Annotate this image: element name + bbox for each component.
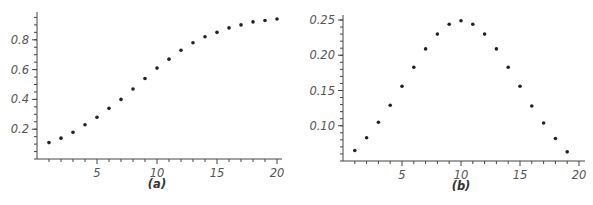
- data-point: [167, 57, 171, 61]
- data-point: [412, 65, 416, 69]
- y-tick-label: 0.10: [309, 119, 335, 133]
- chart-b: 0.100.150.200.255101520(b): [309, 13, 586, 193]
- data-point: [83, 123, 87, 127]
- data-point: [131, 87, 135, 91]
- data-point: [215, 31, 219, 35]
- x-tick-label: 5: [93, 166, 100, 180]
- data-point: [471, 22, 475, 26]
- data-point: [400, 84, 404, 88]
- data-point: [179, 48, 183, 52]
- data-point: [506, 65, 510, 69]
- data-point: [565, 150, 569, 154]
- y-tick-label: 0.2: [11, 122, 29, 136]
- data-point: [107, 107, 111, 111]
- data-point: [530, 104, 534, 108]
- data-point: [388, 104, 392, 108]
- data-point: [191, 41, 195, 45]
- x-tick-label: 15: [513, 168, 528, 182]
- x-tick-label: 5: [398, 168, 405, 182]
- data-point: [495, 47, 499, 51]
- data-point: [203, 35, 207, 39]
- data-point: [436, 32, 440, 36]
- data-point: [155, 66, 159, 70]
- chart-a: 0.20.40.60.85101520(a): [11, 12, 285, 191]
- data-point: [239, 23, 243, 27]
- data-point: [353, 149, 357, 153]
- chart-caption: (a): [148, 177, 166, 191]
- data-point: [59, 136, 63, 140]
- y-tick-label: 0.4: [11, 92, 29, 106]
- data-point: [275, 17, 279, 21]
- y-tick-label: 0.8: [11, 33, 29, 47]
- chart-caption: (b): [452, 179, 471, 193]
- data-point: [483, 32, 487, 36]
- data-point: [365, 136, 369, 140]
- x-tick-label: 15: [210, 166, 225, 180]
- data-point: [71, 130, 75, 134]
- y-tick-label: 0.6: [11, 63, 29, 77]
- data-point: [554, 137, 558, 141]
- y-tick-label: 0.15: [309, 84, 335, 98]
- data-point: [143, 77, 147, 81]
- data-point: [377, 120, 381, 124]
- y-tick-label: 0.20: [309, 48, 335, 62]
- data-point: [95, 115, 99, 119]
- data-point: [251, 20, 255, 24]
- data-point: [47, 141, 51, 145]
- data-point: [119, 98, 123, 102]
- data-point: [459, 19, 463, 23]
- x-tick-label: 20: [270, 166, 285, 180]
- data-point: [263, 19, 267, 23]
- y-tick-label: 0.25: [309, 13, 335, 27]
- data-point: [542, 121, 546, 125]
- data-point: [447, 22, 451, 26]
- data-point: [424, 47, 428, 51]
- data-point: [518, 84, 522, 88]
- data-point: [227, 26, 231, 30]
- x-tick-label: 20: [572, 168, 587, 182]
- figure: 0.20.40.60.85101520(a) 0.100.150.200.255…: [0, 0, 593, 205]
